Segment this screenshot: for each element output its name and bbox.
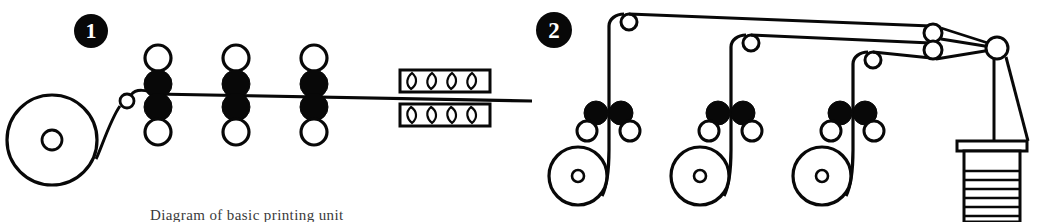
lead-idler-roller — [120, 94, 134, 108]
dryer-lower-box — [400, 104, 490, 126]
station3-turn-idler — [865, 52, 881, 68]
panel-1-drawing — [0, 0, 532, 222]
folder-delivery — [957, 141, 1027, 222]
unit1-top-idler — [145, 45, 171, 71]
unit3-top-idler — [301, 45, 327, 71]
unit2-lower-blanket-cylinder — [222, 93, 250, 121]
unit1-lower-blanket-cylinder — [144, 93, 172, 121]
station1-turn-idler — [621, 14, 637, 30]
paper-roll-outer — [7, 95, 97, 185]
folder-stack-box — [964, 151, 1020, 222]
station2-idler-right — [742, 121, 762, 141]
dryer-upper-box — [400, 70, 490, 92]
print-unit-3 — [300, 45, 328, 145]
unit3-lower-blanket-cylinder — [300, 93, 328, 121]
station1-web-run — [629, 14, 931, 26]
station1-paper-roll — [549, 147, 607, 205]
angle-bar-assembly — [924, 24, 991, 59]
station2-idler-left — [699, 121, 719, 141]
chute-right-edge — [1006, 57, 1028, 141]
web-main-run — [155, 94, 532, 101]
figure-canvas: 1 — [0, 0, 1064, 222]
panel-horizontal-press: 1 — [0, 0, 532, 222]
delivery-chute — [994, 57, 1028, 141]
station3-idler-right — [864, 121, 884, 141]
figure-caption: Diagram of basic printing unit — [150, 207, 490, 222]
panel-2-drawing — [532, 0, 1064, 222]
station2-turn-idler — [743, 35, 759, 51]
station3-idler-left — [821, 121, 841, 141]
station1-idler-right — [620, 121, 640, 141]
angle-bar-upper — [924, 24, 942, 42]
station2-web-run — [751, 35, 931, 43]
roll-stand-1 — [7, 95, 97, 185]
web-station-3 — [793, 52, 931, 205]
angle-bar-lower — [924, 41, 942, 59]
unit3-bottom-idler — [301, 119, 327, 145]
station2-paper-roll — [671, 147, 729, 205]
panel-vertical-press: 2 — [532, 0, 1064, 222]
station1-idler-left — [577, 121, 597, 141]
web-roll-to-idler — [96, 106, 120, 159]
converge-web-lower — [936, 50, 991, 59]
station3-paper-roll — [793, 147, 851, 205]
paper-roll-core — [42, 130, 62, 150]
unit1-bottom-idler — [145, 119, 171, 145]
former-nip-roller — [986, 37, 1008, 59]
unit2-top-idler — [223, 45, 249, 71]
unit2-bottom-idler — [223, 119, 249, 145]
